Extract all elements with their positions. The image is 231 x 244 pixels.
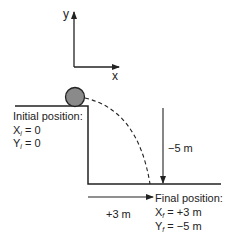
initial-y: Yi = 0 <box>13 137 41 150</box>
initial-x: Xi = 0 <box>13 124 41 137</box>
y-axis-label: y <box>63 7 69 21</box>
final-position-title: Final position: <box>155 192 223 204</box>
coordinate-axes: y x <box>63 7 119 83</box>
final-x: Xf = +3 m <box>155 206 202 219</box>
trajectory-dashed-path <box>85 98 150 184</box>
final-position-block: Final position: Xf = +3 m Yf = −5 m <box>155 192 223 233</box>
x-axis-label: x <box>112 69 118 83</box>
initial-position-block: Initial position: Xi = 0 Yi = 0 <box>13 110 83 150</box>
vertical-displacement-label: −5 m <box>168 142 193 154</box>
ball <box>66 88 85 107</box>
initial-position-title: Initial position: <box>13 110 83 122</box>
horizontal-displacement-label: +3 m <box>106 208 131 220</box>
projectile-diagram: y x −5 m +3 m Initial position: Xi = 0 Y… <box>0 0 231 244</box>
final-y: Yf = −5 m <box>155 220 202 233</box>
